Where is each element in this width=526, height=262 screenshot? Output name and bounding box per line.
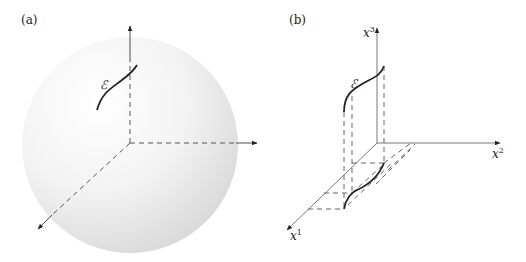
curve-label-b: ℰ <box>350 77 359 91</box>
axis-x1-label: x1 <box>290 228 302 243</box>
axis-x2-label: x2 <box>492 146 504 161</box>
figure: (a) ℰ (b) x3 x2 x1 ℰ <box>0 0 526 262</box>
panel-b-label: (b) <box>289 13 306 27</box>
panel-a: (a) ℰ <box>21 13 257 253</box>
curve-e-projection <box>344 163 384 209</box>
panel-b: (b) x3 x2 x1 ℰ <box>287 13 504 243</box>
axis-diagonal <box>38 215 52 229</box>
axis-x3-label: x3 <box>363 25 375 40</box>
panel-a-label: (a) <box>21 13 38 27</box>
